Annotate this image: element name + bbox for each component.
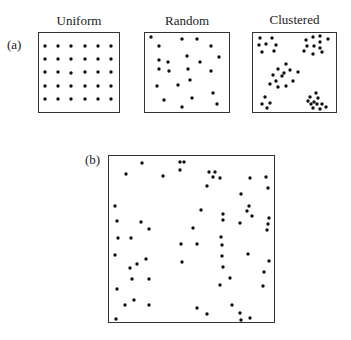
panel-b-dots [113,160,270,321]
dot [188,78,191,81]
dot [109,97,112,100]
dot [186,67,189,70]
dot [129,236,132,239]
dot [272,49,275,52]
dot [312,100,315,103]
dot [147,303,150,306]
dot [318,46,321,49]
dot [96,97,99,100]
dot [239,192,242,195]
dot [113,253,116,256]
dot [199,208,202,211]
dot [296,70,299,73]
dot [220,254,223,257]
dot [178,168,181,171]
dot [270,36,273,39]
dot [218,283,221,286]
dot [228,276,231,279]
dot [56,44,59,47]
dot [132,298,135,301]
dot [195,306,198,309]
dot [220,243,223,246]
dot [316,96,319,99]
dot [264,175,267,178]
dot [43,84,46,87]
dot [205,184,208,187]
dot [43,57,46,60]
dot [69,97,72,100]
dot [215,102,218,105]
dot [276,85,279,88]
dot [157,44,160,47]
dot [238,311,241,314]
dot [109,44,112,47]
dot [217,55,220,58]
dot [180,260,183,263]
dot [230,303,233,306]
dot [135,262,138,265]
dot [257,43,260,46]
dot [96,57,99,60]
dot [282,71,285,74]
dot [43,97,46,100]
dot [83,97,86,100]
dot [311,106,314,109]
dot [167,69,170,72]
dot [69,44,72,47]
dot [124,172,127,175]
dot [209,44,212,47]
dot [96,84,99,87]
uniform-dots [43,44,112,100]
dot [157,67,160,70]
dot [284,84,287,87]
dot [113,204,116,207]
dot [238,221,241,224]
dot [276,67,279,70]
dot [265,228,268,231]
dot [308,95,311,98]
dot [314,91,317,94]
dot [130,277,133,280]
dot [109,57,112,60]
dot [161,174,164,177]
dot [306,99,309,102]
dot [109,84,112,87]
dot [207,170,210,173]
dot [221,212,224,215]
dot [180,37,183,40]
dot [114,317,117,320]
dot [109,70,112,73]
dot [157,58,160,61]
dot [264,42,267,45]
dot [83,57,86,60]
dot [311,52,314,55]
dot [179,242,182,245]
dot [128,266,131,269]
dot [69,57,72,60]
clustered-dots [257,34,329,110]
dot [211,175,214,178]
dot [311,35,314,38]
dot [149,35,152,38]
dot [309,102,312,105]
dot [248,316,251,319]
dot [247,204,250,207]
dot [305,44,308,47]
dot [56,97,59,100]
dot [263,95,266,98]
dot [312,44,315,47]
dot [245,209,248,212]
dot [326,37,329,40]
dot [250,214,253,217]
dot [166,60,169,63]
dot [280,74,283,77]
dot [180,105,183,108]
dot [140,161,143,164]
dot [318,34,321,37]
dot [265,106,268,109]
dot [266,186,269,189]
dot [96,44,99,47]
dot [69,71,72,74]
dot [56,84,59,87]
dot [218,176,221,179]
